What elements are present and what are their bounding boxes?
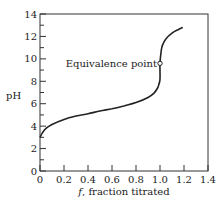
y-tick-label: 14 <box>24 9 37 20</box>
y-axis-label: pH <box>6 90 21 101</box>
y-tick-label: 12 <box>24 31 37 42</box>
y-tick-label: 2 <box>31 143 37 154</box>
x-tick-label: 0.8 <box>128 174 144 185</box>
x-tick-label: 0 <box>37 174 43 185</box>
y-tick-label: 10 <box>24 53 37 64</box>
titration-curve <box>40 28 183 138</box>
x-axis-label-text: , fraction titrated <box>82 186 170 197</box>
plot-frame <box>40 14 208 171</box>
x-tick-label: 0.2 <box>56 174 72 185</box>
equivalence-point-label: Equivalence point <box>66 58 157 69</box>
x-axis-label: f, fraction titrated <box>77 186 170 197</box>
y-tick-label: 8 <box>31 76 37 87</box>
y-tick-label: 4 <box>31 121 37 132</box>
x-tick-label: 0.4 <box>80 174 96 185</box>
titration-chart: 02468101214 00.20.40.60.81.01.21.4 Equiv… <box>0 0 223 202</box>
x-tick-label: 1.4 <box>200 174 216 185</box>
y-tick-label: 6 <box>31 98 37 109</box>
x-tick-label: 1.0 <box>152 174 168 185</box>
x-tick-label: 0.6 <box>104 174 120 185</box>
equivalence-point-marker <box>158 61 162 65</box>
x-axis-ticks: 00.20.40.60.81.01.21.4 <box>37 165 216 185</box>
x-tick-label: 1.2 <box>176 174 192 185</box>
y-axis-ticks: 02468101214 <box>24 9 46 177</box>
